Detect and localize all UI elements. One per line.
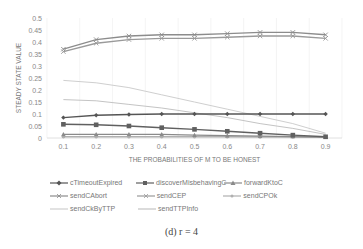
legend-item-discovermisbehavingc: discoverMisbehavingC: [136, 179, 224, 186]
legend-line-icon: [138, 206, 156, 212]
x-tick-label: 0.2: [91, 143, 101, 150]
legend-marker-x-icon: [137, 193, 155, 199]
y-tick-label: 0.15: [28, 99, 42, 106]
y-axis-title: STEADY STATE VALUE: [15, 42, 22, 113]
legend-label: cTimeoutExpired: [70, 179, 122, 186]
chart-legend: cTimeoutExpired discoverMisbehavingC for…: [50, 176, 310, 215]
legend-line-icon: [50, 206, 68, 212]
series-sendCEP: [61, 34, 328, 54]
x-tick-label: 0.8: [288, 143, 298, 150]
legend-item-sendcep: sendCEP: [137, 192, 224, 199]
x-tick-label: 0.4: [157, 143, 167, 150]
y-tick-label: 0.05: [28, 123, 42, 130]
figure-caption: (d) r = 4: [0, 226, 363, 237]
legend-item-sendckbyttp: sendCkByTTP: [50, 205, 138, 212]
y-tick-label: 0.4: [32, 39, 42, 46]
y-tick-label: 0: [38, 135, 42, 142]
legend-item-sendcabort: sendCAbort: [50, 192, 137, 199]
x-axis-title: THE PROBABILITIES OF M TO BE HONEST: [129, 156, 261, 163]
legend-item-forwardktoc: forwardKtoC: [224, 179, 310, 186]
legend-label: sendCPOk: [243, 192, 277, 199]
legend-item-sendttpinfo: sendTTPInfo: [138, 205, 226, 212]
y-tick-label: 0.2: [32, 87, 42, 94]
y-tick-label: 0.45: [28, 27, 42, 34]
series-sendCAbort: [61, 30, 328, 51]
legend-item-sendcpok: sendCPOk: [223, 192, 310, 199]
legend-marker-x-icon: [50, 193, 68, 199]
legend-marker-diamond-icon: [50, 180, 68, 186]
y-tick-label: 0.5: [32, 15, 42, 22]
legend-label: forwardKtoC: [244, 179, 283, 186]
x-tick-label: 0.1: [59, 143, 69, 150]
line-chart: 00.050.10.150.20.250.30.350.40.450.50.10…: [0, 0, 363, 175]
legend-item-ctimeoutexpired: cTimeoutExpired: [50, 179, 136, 186]
legend-label: sendCkByTTP: [70, 205, 115, 212]
legend-label: sendCAbort: [70, 192, 107, 199]
legend-label: discoverMisbehavingC: [156, 179, 226, 186]
series-cTimeoutExpired: [61, 112, 328, 120]
legend-marker-triangle-icon: [224, 180, 242, 186]
x-tick-label: 0.3: [124, 143, 134, 150]
x-tick-label: 0.7: [255, 143, 265, 150]
y-tick-label: 0.35: [28, 51, 42, 58]
legend-label: sendCEP: [157, 192, 187, 199]
y-tick-label: 0.3: [32, 63, 42, 70]
y-tick-label: 0.1: [32, 111, 42, 118]
y-tick-label: 0.25: [28, 75, 42, 82]
x-tick-label: 0.6: [222, 143, 232, 150]
legend-marker-square-icon: [136, 180, 154, 186]
legend-label: sendTTPInfo: [158, 205, 198, 212]
x-tick-label: 0.5: [190, 143, 200, 150]
legend-marker-circle-icon: [223, 193, 241, 199]
x-tick-label: 0.9: [321, 143, 331, 150]
